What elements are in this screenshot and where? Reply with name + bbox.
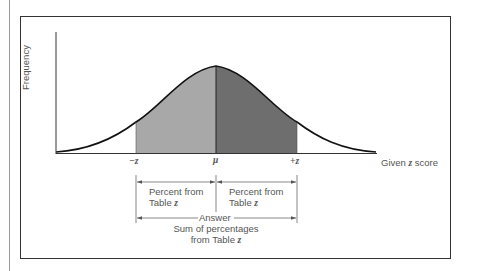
x-axis-label: Given z score (381, 157, 438, 168)
left-bracket-label: Percent from Table z (149, 186, 203, 209)
y-axis-label: Frequency (20, 45, 31, 90)
right-bracket-arrow (217, 180, 296, 184)
answer-description: Sum of percentages from Table z (166, 223, 266, 246)
right-shaded-region (216, 66, 297, 153)
tick-plus-z: +z (290, 156, 299, 166)
right-bracket-label: Percent from Table z (229, 186, 283, 209)
answer-label: Answer (199, 212, 231, 223)
tick-mu: μ (213, 155, 218, 165)
left-bracket-arrow (137, 180, 215, 184)
left-shaded-region (136, 66, 216, 153)
tick-minus-z: −z (129, 156, 138, 166)
